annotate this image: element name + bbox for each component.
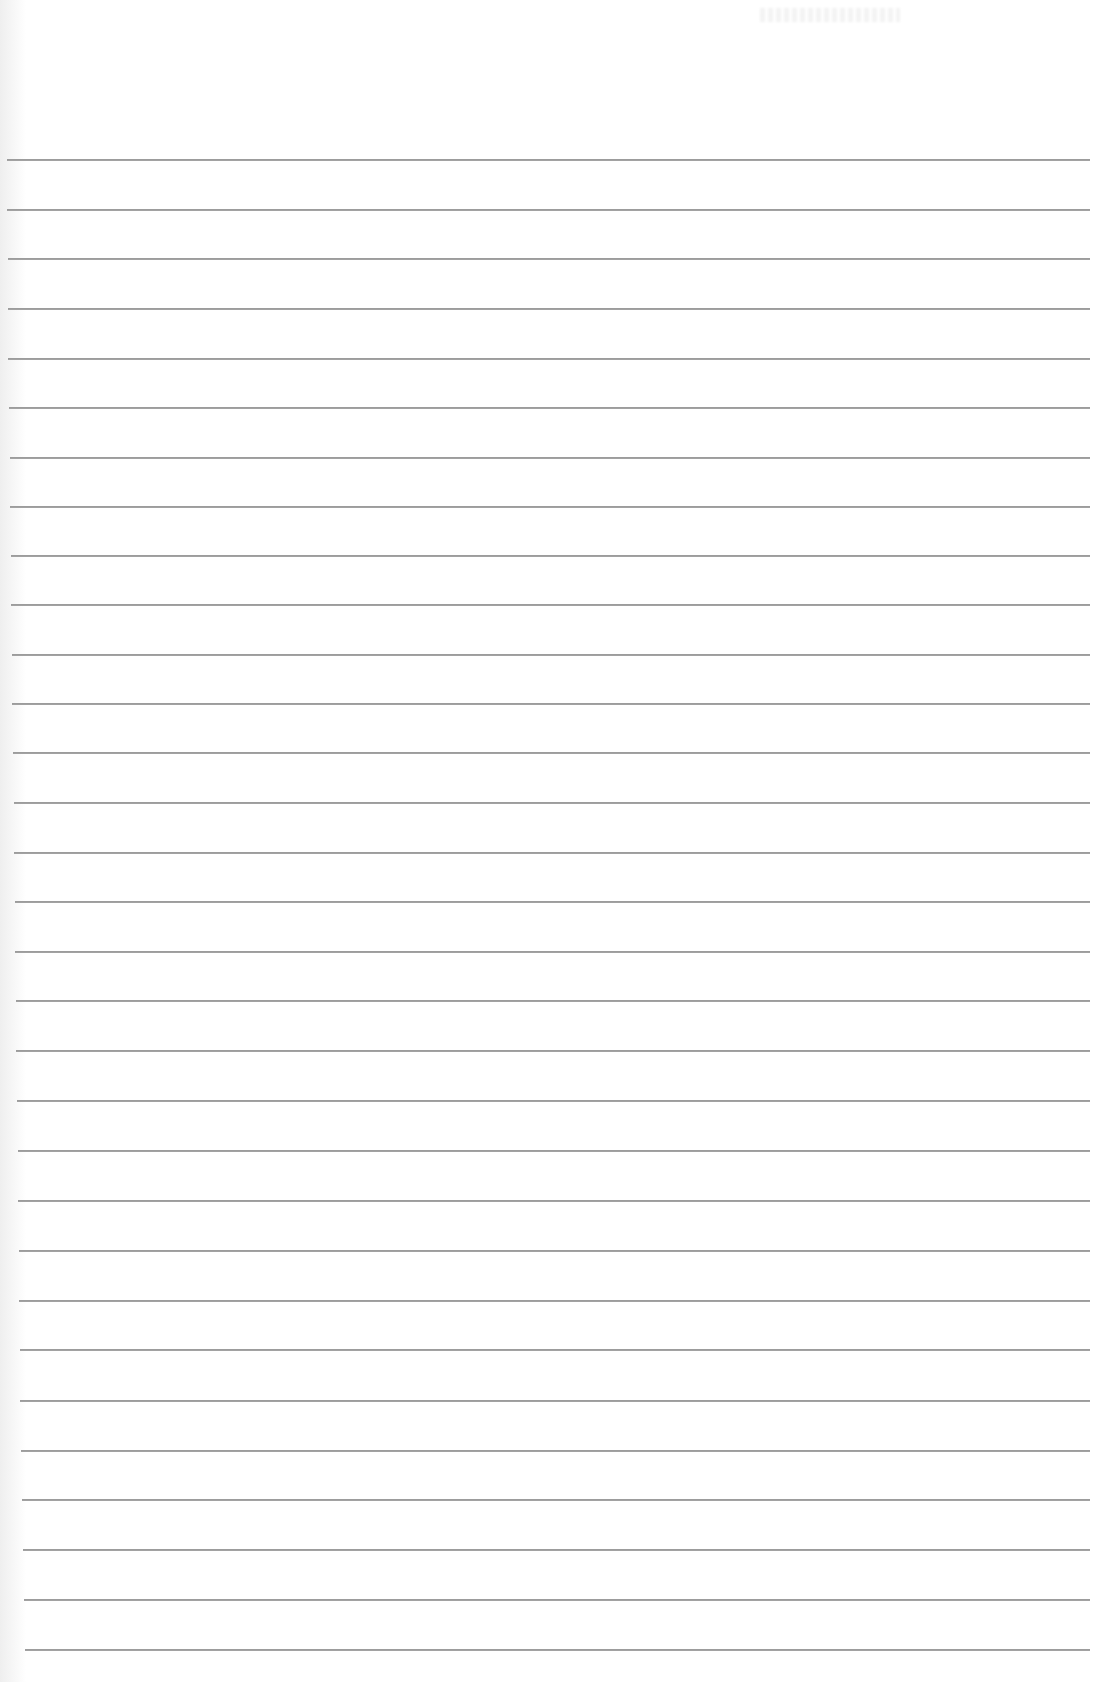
ruled-line — [18, 1200, 1090, 1202]
ruled-line — [22, 1499, 1090, 1501]
lined-paper-sheet — [0, 0, 1094, 1682]
ruled-line — [15, 951, 1090, 953]
ruled-line — [19, 1250, 1090, 1252]
ruled-line — [21, 1450, 1090, 1452]
ruled-line — [25, 1649, 1090, 1651]
ruled-line — [7, 159, 1090, 161]
ruled-line — [24, 1599, 1090, 1601]
ruled-line — [11, 555, 1090, 557]
ruled-line — [20, 1400, 1090, 1402]
ruled-line — [20, 1349, 1090, 1351]
ruled-line — [19, 1300, 1090, 1302]
ruled-line — [12, 654, 1090, 656]
ruled-line — [9, 407, 1090, 409]
ruled-line — [12, 703, 1090, 705]
ruled-line — [8, 258, 1090, 260]
ruled-line — [17, 1100, 1090, 1102]
ruled-line — [16, 1000, 1090, 1002]
ruled-line — [8, 358, 1090, 360]
ruled-line — [16, 1050, 1090, 1052]
ruled-line — [14, 802, 1090, 804]
ruled-line — [23, 1549, 1090, 1551]
ruled-line — [10, 506, 1090, 508]
ruled-line — [10, 457, 1090, 459]
ruled-line — [7, 209, 1090, 211]
ruled-line — [14, 852, 1090, 854]
ruled-line — [11, 604, 1090, 606]
ruled-line — [18, 1150, 1090, 1152]
ruled-line — [15, 901, 1090, 903]
bleed-through-marks — [760, 8, 900, 22]
scan-edge-shadow — [0, 0, 26, 1682]
ruled-line — [13, 752, 1090, 754]
ruled-line — [8, 308, 1090, 310]
